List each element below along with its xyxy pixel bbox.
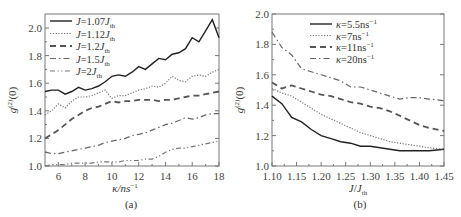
- x-tick-label: 1.10: [262, 170, 282, 182]
- legend-a: J=1.07JthJ=1.12JthJ=1.2JthJ=1.5JthJ=2Jth: [50, 16, 116, 80]
- x-tick-label: 12: [133, 170, 144, 182]
- x-axis-ticks-a: 681012141618: [56, 162, 225, 182]
- y-axis-ticks-a: 1.01.21.41.61.82.0: [28, 22, 219, 172]
- x-tick-label: 1.20: [312, 170, 332, 182]
- legend-entry: κ=20ns−1: [336, 53, 375, 65]
- x-tick-label: 1.30: [361, 170, 381, 182]
- legend-entry: κ=5.5ns−1: [336, 18, 377, 30]
- y-tick-label: 2.0: [255, 8, 269, 20]
- y-tick-label: 1.8: [255, 38, 269, 50]
- legend-b: κ=5.5ns−1κ=7ns−1κ=11ns−1κ=20ns−1: [310, 18, 377, 65]
- x-axis-label-b: J/Jth: [349, 182, 368, 197]
- x-tick-label: 14: [160, 170, 172, 182]
- x-tick-label: 16: [187, 170, 199, 182]
- y-tick-label: 1.8: [28, 50, 42, 62]
- plot-frame-a: [45, 14, 219, 166]
- x-tick-label: 1.45: [434, 170, 454, 182]
- legend-entry: κ=11ns−1: [336, 41, 374, 53]
- y-tick-label: 1.4: [28, 105, 42, 117]
- x-tick-label: 1.35: [385, 170, 405, 182]
- y-tick-label: 1.6: [255, 69, 269, 81]
- x-tick-label: 10: [106, 170, 118, 182]
- figure: 1.01.21.41.61.82.0 681012141618 J=1.07Jt…: [0, 0, 461, 217]
- x-tick-label: 1.25: [336, 170, 356, 182]
- x-tick-label: 6: [56, 170, 62, 182]
- y-tick-label: 1.4: [255, 99, 269, 111]
- y-axis-label-a: g(2)(0): [6, 86, 19, 113]
- x-tick-label: 18: [214, 170, 226, 182]
- x-axis-label-a: κ/ns−1: [112, 182, 138, 194]
- x-tick-label: 1.15: [287, 170, 307, 182]
- x-tick-label: 1.40: [410, 170, 430, 182]
- y-tick-label: 1.2: [255, 130, 269, 142]
- panel-a: 1.01.21.41.61.82.0 681012141618 J=1.07Jt…: [6, 14, 225, 211]
- series-line: [45, 141, 219, 166]
- y-tick-label: 2.0: [28, 22, 42, 34]
- series-line: [272, 82, 444, 131]
- x-tick-label: 8: [82, 170, 88, 182]
- legend-entry: κ=7ns−1: [336, 30, 370, 42]
- caption-a: (a): [125, 198, 138, 211]
- legend-entry: J=2Jth: [76, 66, 102, 80]
- series-line: [272, 89, 444, 150]
- series-line: [45, 20, 219, 95]
- y-tick-label: 1.6: [28, 77, 42, 89]
- x-axis-ticks-b: 1.101.151.201.251.301.351.401.45: [262, 162, 454, 182]
- y-tick-label: 1.2: [28, 132, 42, 144]
- series-line: [45, 92, 219, 139]
- y-axis-label-b: g(2)(0): [233, 86, 246, 113]
- caption-b: (b): [354, 198, 367, 211]
- y-tick-label: 1.0: [28, 160, 42, 172]
- series-lines-a: [45, 20, 219, 166]
- panel-b: 1.01.21.41.61.82.0 1.101.151.201.251.301…: [233, 8, 454, 211]
